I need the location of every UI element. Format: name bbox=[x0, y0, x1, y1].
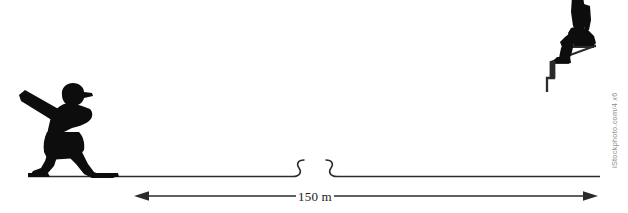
seated-figure-foot bbox=[554, 57, 571, 63]
batter-rear-foot bbox=[28, 173, 50, 177]
watermark-label: iStockphoto.com/4 x6 bbox=[610, 92, 619, 168]
batter-front-foot bbox=[92, 173, 119, 177]
dimension-line: 150 m bbox=[134, 189, 598, 204]
break-mark-left bbox=[293, 160, 304, 177]
dimension-label: 150 m bbox=[298, 189, 332, 204]
watermark: iStockphoto.com/4 x6 bbox=[610, 92, 619, 168]
seated-figure-arm bbox=[584, 4, 591, 30]
baseball-batter-silhouette bbox=[19, 83, 119, 178]
diagram-canvas: 150 m bbox=[0, 0, 628, 213]
batter-rear-leg bbox=[31, 152, 58, 176]
dimension-arrowhead-left bbox=[134, 191, 149, 201]
dimension-arrowhead-right bbox=[583, 191, 598, 201]
batter-head-with-cap bbox=[62, 83, 93, 106]
physics-distance-diagram: 150 m bbox=[0, 0, 628, 213]
break-mark-right bbox=[326, 160, 337, 177]
